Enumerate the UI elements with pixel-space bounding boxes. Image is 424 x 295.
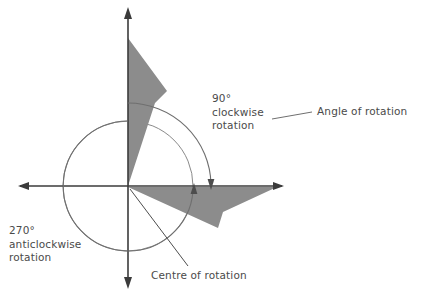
angle-of-rotation-leader-line bbox=[272, 112, 312, 119]
image-shape bbox=[128, 187, 277, 228]
centre-of-rotation-label: Centre of rotation bbox=[151, 269, 247, 283]
anticlockwise-rotation-label: 270° anticlockwise rotation bbox=[9, 224, 81, 265]
rotation-diagram: 90° clockwise rotation 270° anticlockwis… bbox=[0, 0, 424, 295]
angle-of-rotation-label: Angle of rotation bbox=[317, 105, 407, 119]
object-shape bbox=[128, 38, 167, 186]
y-axis-top-arrowhead bbox=[124, 7, 132, 19]
x-axis-right-arrowhead bbox=[273, 182, 284, 190]
y-axis-bottom-arrowhead bbox=[124, 277, 132, 289]
x-axis-left-arrowhead bbox=[18, 182, 29, 190]
clockwise-rotation-label: 90° clockwise rotation bbox=[212, 92, 264, 133]
